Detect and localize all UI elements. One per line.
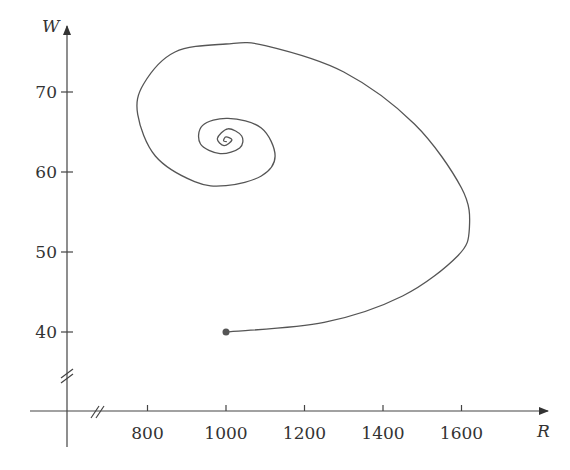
x-tick-label: 1600 — [440, 423, 483, 443]
x-tick-label: 800 — [131, 423, 163, 443]
y-axis-label: W — [42, 16, 61, 36]
x-tick-label: 1200 — [283, 423, 326, 443]
x-tick-label: 1400 — [361, 423, 404, 443]
x-axis-label: R — [536, 421, 550, 441]
trajectory-curve — [137, 43, 470, 332]
y-tick-label: 60 — [35, 162, 57, 182]
y-tick-label: 50 — [35, 242, 57, 262]
x-tick-label: 1000 — [204, 423, 247, 443]
start-point-marker — [223, 329, 230, 336]
y-tick-label: 40 — [35, 322, 57, 342]
y-tick-label: 70 — [35, 82, 57, 102]
x-axis-break-icon — [91, 406, 104, 418]
phase-plot: 8001000120014001600 40506070 R W — [0, 0, 570, 470]
